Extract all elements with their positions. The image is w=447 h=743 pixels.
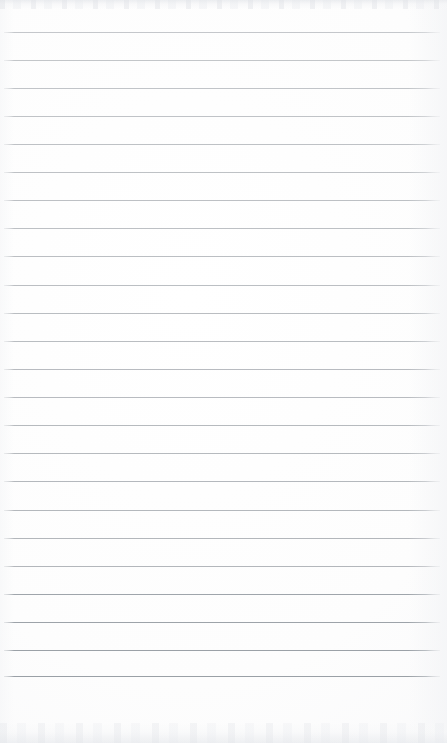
ruled-line: [4, 32, 440, 33]
ruled-line: [4, 116, 440, 117]
ruled-line: [4, 425, 440, 426]
ruled-line: [4, 594, 440, 595]
ruled-line: [4, 566, 440, 567]
ruled-line: [4, 622, 440, 623]
scanned-page: [0, 0, 447, 743]
ruled-line: [4, 369, 440, 370]
ruled-line: [4, 341, 440, 342]
ruled-line: [4, 313, 440, 314]
ruled-line: [4, 481, 440, 482]
ruled-line: [4, 200, 440, 201]
ruled-line: [4, 144, 440, 145]
ruled-line: [4, 538, 440, 539]
ruled-line: [4, 510, 440, 511]
ruled-line: [4, 676, 440, 677]
ruled-line: [4, 60, 440, 61]
ruled-lines-layer: [0, 0, 447, 743]
ruled-line: [4, 453, 440, 454]
ruled-line: [4, 256, 440, 257]
ruled-line: [4, 397, 440, 398]
ruled-line: [4, 650, 440, 651]
ruled-line: [4, 172, 440, 173]
ruled-line: [4, 88, 440, 89]
ruled-line: [4, 285, 440, 286]
ruled-line: [4, 228, 440, 229]
